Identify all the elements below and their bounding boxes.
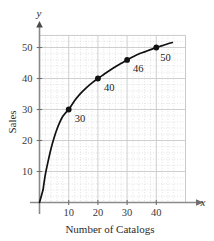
data-point-label: 46 xyxy=(133,63,144,74)
x-tick-label: 10 xyxy=(63,207,74,218)
data-point-marker xyxy=(124,57,130,63)
chart-background xyxy=(0,0,214,241)
x-tick-label: 40 xyxy=(151,207,162,218)
y-tick-label: 20 xyxy=(22,135,33,146)
sales-vs-catalogs-chart: 10203040 1020304050 30404650 x y Number … xyxy=(0,0,214,241)
y-tick-label: 40 xyxy=(22,73,33,84)
data-point-marker xyxy=(66,107,72,113)
data-point-label: 50 xyxy=(160,52,171,63)
x-axis-symbol: x xyxy=(200,196,206,208)
data-point-label: 40 xyxy=(104,82,115,93)
data-point-marker xyxy=(153,45,159,51)
x-axis-title: Number of Catalogs xyxy=(65,223,154,235)
y-tick-label: 10 xyxy=(22,166,33,177)
y-axis-title: Sales xyxy=(6,110,18,133)
x-tick-label: 30 xyxy=(122,207,133,218)
y-tick-label: 50 xyxy=(22,42,33,53)
chart-figure: 10203040 1020304050 30404650 x y Number … xyxy=(0,0,214,241)
y-axis-symbol: y xyxy=(36,7,42,19)
y-tick-label: 30 xyxy=(22,104,33,115)
x-tick-label: 20 xyxy=(93,207,104,218)
data-point-label: 30 xyxy=(75,113,86,124)
data-point-marker xyxy=(95,76,101,82)
